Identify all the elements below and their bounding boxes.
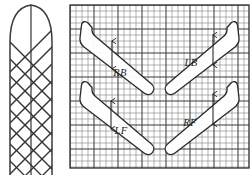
blade-lb-label: LB — [184, 57, 198, 68]
blade-rb-label: RB — [112, 67, 127, 78]
grid-panel: RB LB LF RF — [0, 0, 251, 175]
blade-lf-label: LF — [114, 125, 128, 136]
blade-rf-label: RF — [182, 117, 197, 128]
figure-root: RB LB LF RF — [0, 0, 251, 175]
